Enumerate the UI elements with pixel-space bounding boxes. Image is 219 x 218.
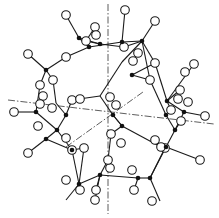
open-atom-circle [76, 186, 85, 195]
black-atom-dot [165, 99, 170, 104]
black-atom-dot [182, 110, 187, 115]
black-atom-dot [87, 45, 92, 50]
black-atom-dot [44, 68, 49, 73]
black-atom-dot [136, 176, 141, 181]
bond-line [150, 80, 166, 115]
open-atom-circle [146, 76, 155, 85]
black-atom-dot [111, 113, 116, 118]
open-atom-circle [106, 93, 115, 102]
open-atom-circle [24, 149, 33, 158]
open-atom-circle [92, 31, 101, 40]
bond-line [72, 150, 79, 184]
bond-line [79, 148, 84, 184]
open-atom-circle [167, 106, 176, 115]
open-atom-circle [104, 156, 113, 165]
black-atom-dot [98, 42, 103, 47]
open-atom-circle [68, 96, 77, 105]
black-atom-dot [140, 39, 145, 44]
bond-line [166, 115, 175, 130]
open-atom-circle [62, 134, 71, 143]
open-atom-circle [49, 76, 58, 85]
black-atom-dot [44, 137, 49, 142]
bond-line [57, 115, 66, 130]
black-atom-dot [98, 173, 103, 178]
black-atom-dot [120, 124, 125, 129]
open-atom-circle [62, 53, 71, 62]
open-atom-circle [76, 95, 85, 104]
black-atom-dot [64, 113, 69, 118]
open-atom-circle [151, 136, 160, 145]
open-atom-circle [39, 92, 48, 101]
bond-line [56, 103, 66, 115]
open-atom-circle [91, 23, 100, 32]
open-atom-circle [181, 68, 190, 77]
bond-line [166, 147, 200, 160]
molecular-structure-diagram [0, 0, 219, 218]
black-atom-dot [130, 73, 135, 78]
black-atom-dot [164, 113, 169, 118]
black-atom-dot [120, 40, 125, 45]
black-atom-dot [77, 36, 82, 41]
open-atom-circle [151, 59, 160, 68]
open-atom-circle [129, 57, 138, 66]
black-atom-dot [77, 182, 82, 187]
bond-line [100, 62, 122, 96]
open-atom-circle [24, 50, 33, 59]
open-atom-circle [201, 112, 210, 121]
black-atom-dot [55, 128, 60, 133]
open-atom-circle [36, 81, 45, 90]
open-atom-circle [106, 164, 115, 173]
open-atom-circle [36, 100, 45, 109]
open-atom-circle [117, 139, 126, 148]
open-atom-circle [176, 86, 185, 95]
open-atom-circle [80, 144, 89, 153]
open-atom-circle [151, 17, 160, 26]
black-atom-dot [70, 148, 75, 153]
open-atom-circle [121, 6, 130, 15]
open-atom-circle [82, 37, 91, 46]
bond-line [100, 175, 138, 178]
open-atom-circle [34, 122, 43, 131]
open-atom-circle [62, 11, 71, 20]
bond-line [79, 175, 100, 184]
black-atom-dot [148, 176, 153, 181]
open-atom-circle [148, 197, 157, 206]
open-atom-circle [112, 101, 121, 110]
open-atom-circle [174, 95, 183, 104]
open-atom-circle [190, 60, 199, 69]
open-atom-circle [134, 49, 143, 58]
open-atom-circle [48, 104, 57, 113]
symmetry-axes [8, 4, 214, 214]
open-atom-circle [91, 196, 100, 205]
open-atom-circle [10, 108, 19, 117]
open-atom-circle [107, 130, 116, 139]
open-atom-circle [128, 166, 137, 175]
open-atom-circle [196, 156, 205, 165]
black-atom-dot [164, 145, 169, 150]
open-atom-circle [184, 98, 193, 107]
open-atom-circle [62, 176, 71, 185]
open-atom-circle [92, 186, 101, 195]
open-atom-circle [177, 117, 186, 126]
open-atom-circle [130, 186, 139, 195]
black-atom-dot [34, 110, 39, 115]
black-atom-dot [173, 128, 178, 133]
